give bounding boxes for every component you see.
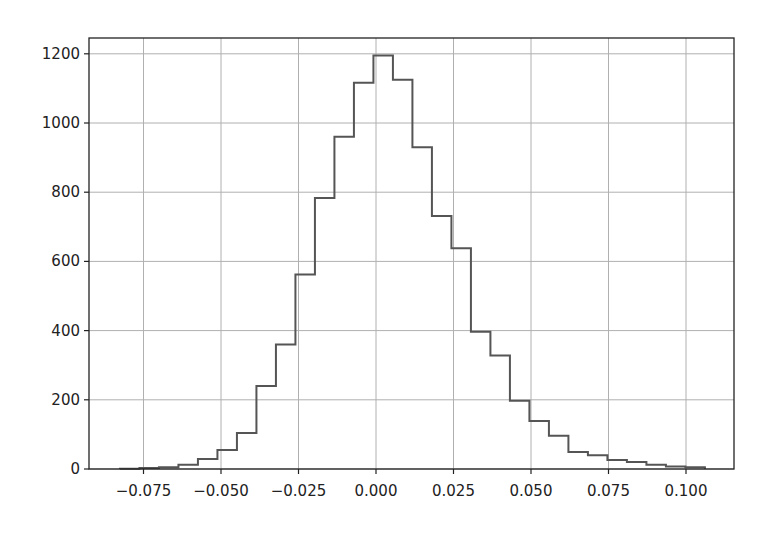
- histogram-step-line: [120, 56, 705, 469]
- x-axis: −0.075−0.050−0.0250.0000.0250.0500.0750.…: [116, 469, 708, 500]
- x-tick-label: 0.000: [355, 482, 398, 500]
- x-tick-label: −0.075: [116, 482, 172, 500]
- y-axis: 020040060080010001200: [42, 45, 89, 478]
- y-tick-label: 400: [51, 322, 80, 340]
- x-tick-label: 0.100: [665, 482, 708, 500]
- x-tick-label: −0.050: [193, 482, 249, 500]
- y-tick-label: 200: [51, 391, 80, 409]
- x-tick-label: −0.025: [271, 482, 327, 500]
- y-tick-label: 800: [51, 183, 80, 201]
- x-tick-label: 0.025: [432, 482, 475, 500]
- y-tick-label: 600: [51, 252, 80, 270]
- y-tick-label: 1200: [42, 45, 80, 63]
- x-tick-label: 0.075: [587, 482, 630, 500]
- histogram-chart: −0.075−0.050−0.0250.0000.0250.0500.0750.…: [0, 0, 760, 534]
- y-tick-label: 0: [70, 460, 80, 478]
- x-tick-label: 0.050: [510, 482, 553, 500]
- y-tick-label: 1000: [42, 114, 80, 132]
